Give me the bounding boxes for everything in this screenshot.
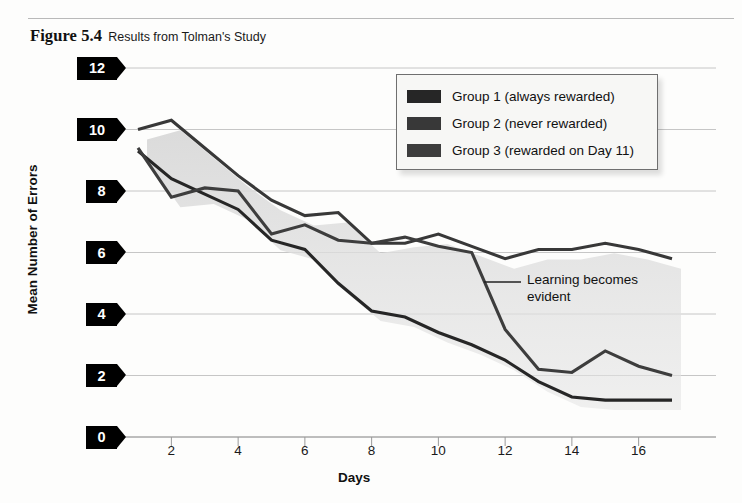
y-tick-pointer-icon xyxy=(117,118,126,140)
x-axis-label: Days xyxy=(338,470,370,485)
legend-item-3[interactable]: Group 3 (rewarded on Day 11) xyxy=(407,137,647,164)
y-tick-pointer-icon xyxy=(117,364,126,386)
annotation-text: Learning becomes evident xyxy=(527,272,638,306)
y-tick-6: 6 xyxy=(86,241,117,264)
y-tick-pointer-icon xyxy=(117,241,126,263)
x-tick-2: 2 xyxy=(156,443,186,458)
x-tick-4: 4 xyxy=(223,443,253,458)
legend-swatch-icon xyxy=(407,117,441,130)
x-tick-12: 12 xyxy=(490,443,520,458)
legend-label: Group 1 (always rewarded) xyxy=(452,89,615,104)
y-tick-pointer-icon xyxy=(117,180,126,202)
legend-item-2[interactable]: Group 2 (never rewarded) xyxy=(407,110,647,137)
x-tick-14: 14 xyxy=(557,443,587,458)
y-tick-pointer-icon xyxy=(117,426,126,448)
x-tick-6: 6 xyxy=(290,443,320,458)
y-tick-12: 12 xyxy=(77,57,117,80)
legend-item-1[interactable]: Group 1 (always rewarded) xyxy=(407,83,647,110)
legend-swatch-icon xyxy=(407,90,441,103)
x-tick-10: 10 xyxy=(423,443,453,458)
legend-swatch-icon xyxy=(407,144,441,157)
y-tick-0: 0 xyxy=(86,426,117,449)
y-tick-pointer-icon xyxy=(117,303,126,325)
y-tick-pointer-icon xyxy=(117,57,126,79)
figure-container: Figure 5.4Results from Tolman's Study Me… xyxy=(0,0,742,503)
y-tick-8: 8 xyxy=(86,180,117,203)
chart-shadow-fill xyxy=(147,130,681,410)
y-tick-2: 2 xyxy=(86,364,117,387)
legend-label: Group 3 (rewarded on Day 11) xyxy=(452,143,634,158)
legend-label: Group 2 (never rewarded) xyxy=(452,116,607,131)
chart-plot-area: Mean Number of Errors Days 024681012 246… xyxy=(0,0,742,503)
y-axis-label: Mean Number of Errors xyxy=(25,145,40,335)
y-tick-10: 10 xyxy=(77,118,117,141)
x-tick-8: 8 xyxy=(357,443,387,458)
y-tick-4: 4 xyxy=(86,303,117,326)
chart-legend: Group 1 (always rewarded)Group 2 (never … xyxy=(396,74,658,170)
x-tick-16: 16 xyxy=(624,443,654,458)
